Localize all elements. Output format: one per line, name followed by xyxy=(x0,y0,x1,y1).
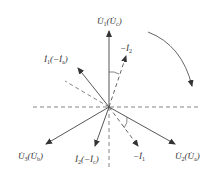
rotation-direction-arrow xyxy=(148,32,192,86)
label-i2: İ2(−İc) xyxy=(74,154,99,165)
angle-arc-u2-negi1 xyxy=(124,117,127,128)
angle-arc-u1-negi2 xyxy=(109,72,119,74)
phasor-neg-i1 xyxy=(109,107,138,146)
label-u3: U̇3(U̇b) xyxy=(18,151,43,162)
label-neg-i2: −İ2 xyxy=(120,43,132,54)
phasor-u2 xyxy=(109,107,175,144)
phasor-i1 xyxy=(78,68,109,107)
label-neg-i1: −İ1 xyxy=(133,151,145,162)
label-u1: U̇1(U̇c) xyxy=(97,16,122,27)
label-u2: U̇2(U̇a) xyxy=(175,151,200,162)
phasor-u3 xyxy=(46,107,109,144)
phasor-neg-i2 xyxy=(109,56,126,107)
label-i1: İ1(−İa) xyxy=(43,54,68,65)
phasor-diagram: U̇1(U̇c) U̇2(U̇a) U̇3(U̇b) İ1(−İa) İ2(−İ… xyxy=(0,0,219,182)
phasor-i2 xyxy=(95,107,109,146)
upper-left-reference xyxy=(65,81,109,107)
